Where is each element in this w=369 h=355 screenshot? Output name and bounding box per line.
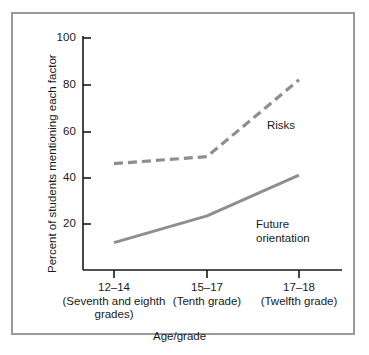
y-axis-title: Percent of students mentioning each fact…	[46, 63, 58, 273]
y-tick-label-100: 100	[46, 31, 76, 43]
chart-frame: 100 80 60 40 20 12–14 (Seventh and eight…	[11, 12, 355, 335]
series-annotation-risks: Risks	[267, 118, 295, 132]
series-annotation-future-orientation-line1: Future	[256, 217, 310, 231]
x-axis-title: Age/grade	[153, 330, 206, 342]
series-annotation-future-orientation-line2: orientation	[256, 231, 310, 245]
x-tick-label-sub-17-18-line1: (Twelfth grade)	[241, 295, 357, 309]
x-tick-label-main-17-18: 17–18	[241, 281, 357, 295]
x-tick-label-sub-12-14-line2: grades)	[34, 308, 194, 322]
x-tick-group-17-18: 17–18 (Twelfth grade)	[241, 281, 357, 308]
series-annotation-future-orientation: Future orientation	[256, 217, 310, 245]
chart-figure: 100 80 60 40 20 12–14 (Seventh and eight…	[0, 0, 369, 355]
